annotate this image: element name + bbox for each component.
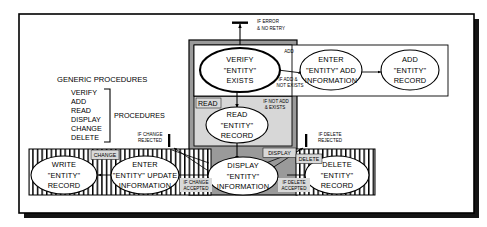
node-verify-line3: EXISTS <box>227 76 254 85</box>
node-write-record-line2: "ENTITY" <box>48 171 81 180</box>
node-write-record[interactable]: WRITE "ENTITY" RECORD <box>31 156 97 194</box>
label-change-rejected-line1: IF CHANGE <box>138 132 163 137</box>
label-delete-accepted-line2: ACCEPTED <box>282 186 308 191</box>
legend-item-display: DISPLAY <box>71 115 101 124</box>
legend-item-verify: VERIFY <box>71 88 97 97</box>
tag-delete: DELETE <box>296 154 322 164</box>
label-delete-accepted-line1: IF DELETE <box>282 180 305 185</box>
node-enter-add-line2: "ENTITY" ADD <box>306 66 356 75</box>
node-read-record-line1: READ <box>227 110 248 119</box>
label-error-line2: & NO RETRY <box>257 26 285 31</box>
node-add-record-line3: RECORD <box>394 76 427 85</box>
node-verify-line1: VERIFY <box>226 55 253 64</box>
label-add: ADD <box>284 49 294 54</box>
node-delete-record-line1: DELETE <box>322 160 351 169</box>
node-read-record-line2: "ENTITY" <box>221 121 254 130</box>
node-display-info[interactable]: DISPLAY "ENTITY" INFORMATION <box>208 157 278 195</box>
tag-display-label: DISPLAY <box>268 150 291 156</box>
node-write-record-line3: RECORD <box>48 181 81 190</box>
label-change-accepted-line2: ACCEPTED <box>184 186 210 191</box>
label-not-add-exists-line1: IF NOT ADD <box>263 99 289 104</box>
tag-change: CHANGE <box>91 150 119 160</box>
node-enter-update-line2: "ENTITY" UPDATE <box>113 171 178 180</box>
node-display-info-line3: INFORMATION <box>217 182 269 191</box>
node-add-record-line1: ADD <box>402 55 418 64</box>
label-delete-rejected-line2: REJECTED <box>318 138 343 143</box>
tag-read: READ <box>196 98 221 108</box>
delete-rejected-bar <box>305 134 307 147</box>
node-enter-add-line3: INFORMATION <box>305 76 357 85</box>
legend-title: GENERIC PROCEDURES <box>57 75 147 84</box>
node-enter-add[interactable]: ENTER "ENTITY" ADD INFORMATION <box>300 50 362 90</box>
node-enter-update[interactable]: ENTER "ENTITY" UPDATE INFORMATION <box>111 156 179 194</box>
label-change-rejected-line2: REJECTED <box>138 138 163 143</box>
diagram-canvas: VERIFY "ENTITY" EXISTS ENTER "ENTITY" AD… <box>0 0 487 227</box>
node-enter-update-line3: INFORMATION <box>119 181 171 190</box>
tag-display: DISPLAY <box>263 148 296 158</box>
node-display-info-line1: DISPLAY <box>227 161 258 170</box>
legend-item-add: ADD <box>71 97 86 106</box>
node-display-info-line2: "ENTITY" <box>227 172 260 181</box>
node-enter-add-line1: ENTER <box>318 55 344 64</box>
node-verify-line2: "ENTITY" <box>224 66 257 75</box>
node-read-record-line3: RECORD <box>221 131 254 140</box>
change-rejected-bar <box>168 134 170 147</box>
label-error-line1: IF ERROR <box>257 19 280 24</box>
legend-item-delete: DELETE <box>71 133 99 142</box>
legend-item-change: CHANGE <box>71 124 102 133</box>
legend-item-read: READ <box>71 106 91 115</box>
node-add-record-line2: "ENTITY" <box>394 66 427 75</box>
node-delete-record-line3: RECORD <box>321 181 354 190</box>
label-add-not-exists-line1: IF ADD & <box>278 77 297 82</box>
label-not-add-exists-line2: & EXISTS <box>265 105 286 110</box>
tag-read-label: READ <box>198 100 217 107</box>
tag-change-label: CHANGE <box>94 152 117 158</box>
terminator-bar <box>232 22 248 24</box>
tag-change-accepted: IF CHANGE ACCEPTED <box>180 178 212 192</box>
label-change-accepted-line1: IF CHANGE <box>184 180 209 185</box>
node-write-record-line1: WRITE <box>52 160 76 169</box>
procedures-label: PROCEDURES <box>114 111 165 120</box>
node-verify[interactable]: VERIFY "ENTITY" EXISTS <box>200 48 280 92</box>
label-add-not-exists-line2: NOT EXISTS <box>276 83 303 88</box>
tag-delete-accepted: IF DELETE ACCEPTED <box>278 178 310 192</box>
node-read-record[interactable]: READ "ENTITY" RECORD <box>206 107 268 143</box>
label-delete-rejected-line1: IF DELETE <box>318 132 341 137</box>
tag-delete-label: DELETE <box>299 156 320 162</box>
node-add-record[interactable]: ADD "ENTITY" RECORD <box>381 50 439 90</box>
node-enter-update-line1: ENTER <box>132 160 158 169</box>
node-delete-record-line2: "ENTITY" <box>321 171 354 180</box>
